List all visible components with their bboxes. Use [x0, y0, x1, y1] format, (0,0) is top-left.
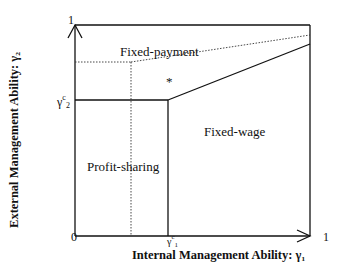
region-fixed-wage-label: Fixed-wage [204, 125, 265, 138]
y-axis-title: External Management Ability: γ₂ [8, 52, 21, 228]
region-fixed-payment-label: Fixed-payment [120, 45, 199, 58]
x-max-label: 1 [323, 231, 329, 243]
origin-label: 0 [71, 231, 77, 243]
x-axis-title: Internal Management Ability: γ₁ [132, 249, 305, 262]
y-max-label: 1 [68, 14, 74, 26]
gamma2-threshold-label: γc2 [57, 94, 70, 110]
star-marker: * [166, 75, 173, 88]
region-profit-sharing-label: Profit-sharing [87, 160, 159, 173]
gamma1-threshold-label: γc1 [167, 234, 178, 249]
